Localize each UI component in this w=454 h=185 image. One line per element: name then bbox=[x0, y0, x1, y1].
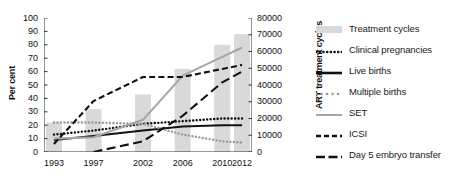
legend-swatch-svg bbox=[316, 130, 342, 142]
x-axis-tick-label: 1993 bbox=[37, 159, 71, 168]
dotted-swatch bbox=[316, 44, 342, 56]
plot-svg bbox=[44, 18, 252, 152]
solid-swatch bbox=[316, 65, 342, 77]
legend-item[interactable]: Clinical pregnancies bbox=[316, 39, 454, 60]
bar-treatment-cycles bbox=[234, 34, 250, 152]
bar-swatch bbox=[316, 23, 342, 35]
dashed-swatch bbox=[316, 128, 342, 140]
chart-legend: Treatment cyclesClinical pregnanciesLive… bbox=[316, 18, 454, 165]
longdash-swatch bbox=[316, 149, 342, 161]
bar-treatment-cycles bbox=[214, 45, 230, 152]
legend-item[interactable]: SET bbox=[316, 102, 454, 123]
legend-item[interactable]: Live births bbox=[316, 60, 454, 81]
gray-dot-swatch bbox=[316, 86, 342, 98]
bar-treatment-cycles bbox=[46, 123, 62, 152]
gray-line-swatch bbox=[316, 107, 342, 119]
x-axis-tick-label: 2006 bbox=[166, 159, 200, 168]
x-axis-tick-label: 2002 bbox=[126, 159, 160, 168]
plot-area bbox=[44, 18, 252, 152]
legend-item[interactable]: Day 5 embryo transfer bbox=[316, 144, 454, 165]
legend-item[interactable]: Treatment cycles bbox=[316, 18, 454, 39]
legend-swatch-svg bbox=[316, 67, 342, 79]
chart-container: Per cent ART treatment cycles 0102030405… bbox=[0, 0, 454, 185]
legend-item[interactable]: ICSI bbox=[316, 123, 454, 144]
bar-swatch-fill bbox=[316, 26, 342, 33]
legend-item-label: Clinical pregnancies bbox=[349, 44, 432, 55]
legend-item-label: ICSI bbox=[349, 128, 367, 139]
legend-swatch-svg bbox=[316, 88, 342, 100]
legend-item-label: SET bbox=[349, 107, 367, 118]
legend-item-label: Day 5 embryo transfer bbox=[349, 149, 441, 160]
x-axis-tick-label: 1997 bbox=[77, 159, 111, 168]
legend-item[interactable]: Multiple births bbox=[316, 81, 454, 102]
legend-swatch-svg bbox=[316, 109, 342, 121]
legend-item-label: Multiple births bbox=[349, 86, 406, 97]
x-axis-tick-label: 2012 bbox=[225, 159, 259, 168]
legend-swatch-svg bbox=[316, 46, 342, 58]
legend-item-label: Live births bbox=[349, 65, 391, 76]
legend-item-label: Treatment cycles bbox=[349, 23, 419, 34]
legend-swatch-svg bbox=[316, 151, 342, 163]
